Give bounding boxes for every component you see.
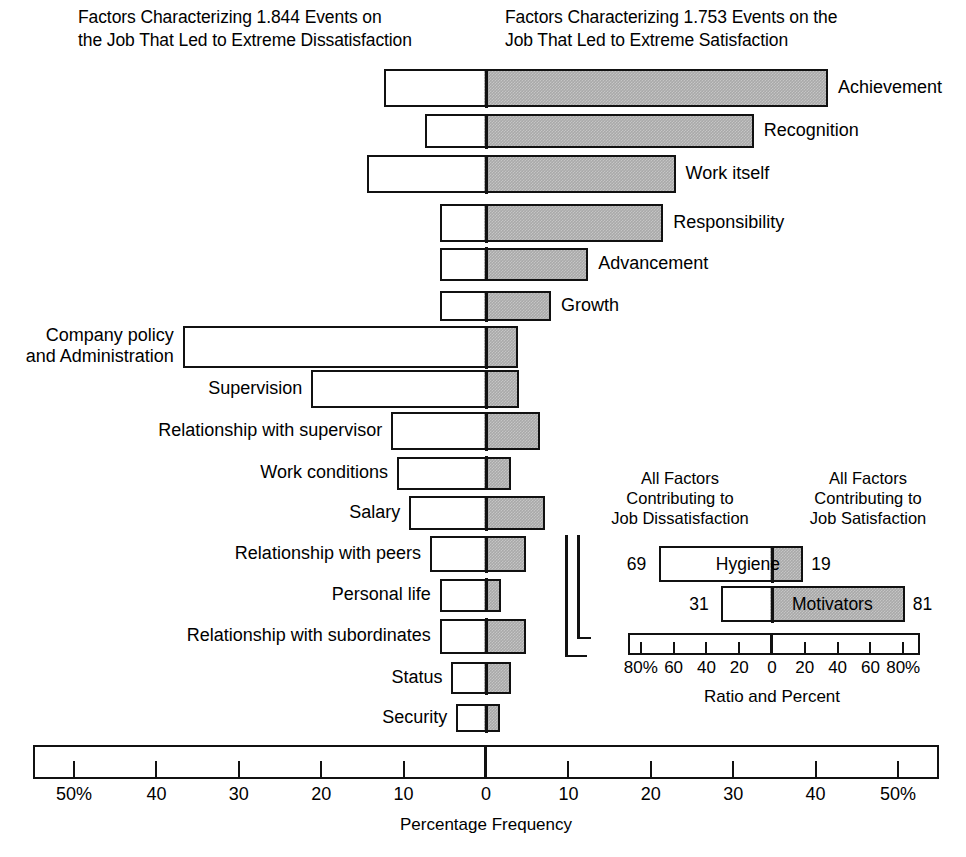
bar-advancement <box>440 248 588 281</box>
axis-tick <box>73 761 75 777</box>
main-chart: AchievementRecognitionWork itselfRespons… <box>0 0 966 857</box>
bar-relationship-with-peers <box>430 536 526 572</box>
inset-axis-tick <box>837 642 839 653</box>
inset-value-satisfaction: 19 <box>811 554 830 575</box>
inset-bar-zero-divider <box>771 586 774 623</box>
bar-satisfaction-segment <box>484 621 524 652</box>
bar-label: Relationship with subordinates <box>187 625 431 646</box>
inset-chart: All Factors Contributing to Job Dissatis… <box>560 468 966 718</box>
inset-bar-label: Motivators <box>792 594 873 615</box>
bar-personal-life <box>440 579 501 612</box>
bar-zero-divider <box>485 662 488 695</box>
inset-title-satisfaction: All Factors Contributing to Job Satisfac… <box>778 468 958 528</box>
axis-tick <box>403 761 405 777</box>
inset-axis-tick <box>673 642 675 653</box>
bar-label: Achievement <box>838 77 942 98</box>
bar-growth <box>440 291 551 321</box>
axis-tick <box>320 761 322 777</box>
inset-axis-tick <box>902 642 904 653</box>
bar-label: Work conditions <box>260 462 388 483</box>
inset-axis-tick <box>705 642 707 653</box>
bar-zero-divider <box>485 618 488 654</box>
bar-zero-divider <box>485 704 488 733</box>
axis-tick <box>815 761 817 777</box>
bar-zero-divider <box>485 496 488 531</box>
bar-label: Relationship with supervisor <box>158 420 382 441</box>
bar-security <box>456 704 500 732</box>
bar-label: Responsibility <box>673 212 784 233</box>
inset-value-satisfaction: 81 <box>913 594 932 615</box>
inset-value-dissatisfaction: 31 <box>689 594 708 615</box>
axis-tick-label: 10 <box>558 784 578 805</box>
bar-relationship-with-supervisor <box>391 412 540 450</box>
axis-tick-label: 30 <box>723 784 743 805</box>
axis-tick <box>732 761 734 777</box>
inset-bar-hygiene: Hygiene <box>659 546 803 582</box>
bar-satisfaction-segment <box>484 71 826 105</box>
bar-zero-divider <box>485 326 488 369</box>
inset-axis-tick-label: 80% <box>886 658 920 678</box>
axis-tick-label: 20 <box>641 784 661 805</box>
inset-axis-tick-label: 0 <box>767 658 776 678</box>
inset-axis-tick-label: 60 <box>861 658 880 678</box>
bar-label: Company policy and Administration <box>26 325 174 367</box>
bar-zero-divider <box>485 456 488 490</box>
bar-relationship-with-subordinates <box>440 619 527 654</box>
inset-axis-tick-label: 40 <box>697 658 716 678</box>
bar-zero-divider <box>485 114 488 149</box>
inset-x-axis-caption: Ratio and Percent <box>704 687 840 707</box>
bar-responsibility <box>440 204 663 242</box>
axis-tick-label: 30 <box>229 784 249 805</box>
bar-satisfaction-segment <box>484 250 586 279</box>
bar-label: Personal life <box>332 584 431 605</box>
bar-label: Growth <box>561 295 619 316</box>
bar-zero-divider <box>485 291 488 322</box>
bar-satisfaction-segment <box>484 414 538 448</box>
bar-status <box>451 662 510 694</box>
axis-tick <box>567 761 569 777</box>
inset-axis-tick-label: 20 <box>730 658 749 678</box>
bar-label: Work itself <box>686 163 770 184</box>
axis-tick <box>650 761 652 777</box>
bar-zero-divider <box>485 69 488 108</box>
inset-x-axis <box>628 633 920 655</box>
bar-zero-divider <box>485 370 488 409</box>
bar-label: Relationship with peers <box>235 543 421 564</box>
bar-label: Security <box>382 707 447 728</box>
bar-zero-divider <box>485 412 488 451</box>
bar-supervision <box>311 370 519 408</box>
bar-satisfaction-segment <box>484 538 524 570</box>
bar-satisfaction-segment <box>484 206 661 240</box>
bar-work-conditions <box>397 457 511 490</box>
bar-satisfaction-segment <box>484 116 752 146</box>
bar-company-policy-and-administration <box>183 326 518 368</box>
axis-tick-label: 40 <box>806 784 826 805</box>
bar-zero-divider <box>485 155 488 194</box>
axis-tick-label: 50% <box>56 784 92 805</box>
axis-tick <box>897 761 899 777</box>
x-axis <box>33 745 939 779</box>
bar-satisfaction-segment <box>484 498 543 528</box>
bar-label: Supervision <box>208 378 302 399</box>
bar-satisfaction-segment <box>484 157 674 191</box>
bar-satisfaction-segment <box>484 293 549 319</box>
bar-label: Advancement <box>598 253 708 274</box>
axis-tick-label: 20 <box>311 784 331 805</box>
inset-axis-tick-label: 60 <box>664 658 683 678</box>
inset-axis-tick <box>738 642 740 653</box>
axis-tick-label: 50% <box>880 784 916 805</box>
bar-label: Salary <box>349 502 400 523</box>
bar-salary <box>409 496 545 530</box>
bar-satisfaction-segment <box>484 328 516 366</box>
bar-label: Recognition <box>764 120 859 141</box>
inset-axis-tick <box>640 642 642 653</box>
inset-axis-tick-label: 20 <box>795 658 814 678</box>
inset-value-dissatisfaction: 69 <box>627 554 646 575</box>
inset-axis-tick <box>804 642 806 653</box>
axis-tick-label: 0 <box>481 784 491 805</box>
inset-axis-tick-label: 80% <box>624 658 658 678</box>
bar-satisfaction-segment <box>484 372 517 406</box>
bar-zero-divider <box>485 536 488 573</box>
bar-achievement <box>384 69 828 107</box>
axis-tick-label: 10 <box>394 784 414 805</box>
